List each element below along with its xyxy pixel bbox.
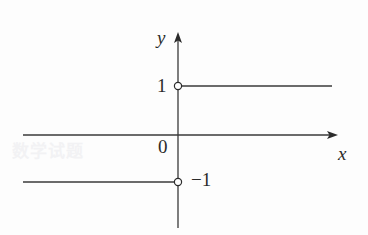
y-axis-label: y: [157, 28, 165, 47]
tick-label-negative-one: −1: [191, 170, 211, 189]
open-point-upper: [174, 82, 181, 89]
origin-label: 0: [158, 137, 168, 156]
axes-group: [23, 32, 338, 228]
graph-canvas: [0, 0, 368, 235]
tick-label-one: 1: [157, 76, 167, 95]
open-point-lower: [174, 178, 181, 185]
x-axis-label: x: [338, 144, 346, 163]
function-graph-figure: 数学试题 y x 1 0 −1: [0, 0, 368, 235]
